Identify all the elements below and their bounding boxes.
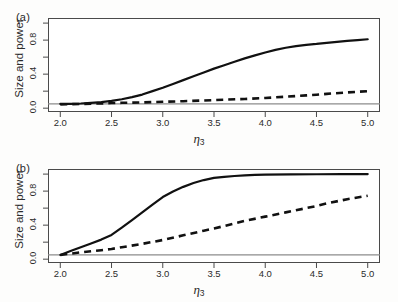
x-tick-label: 4.5 — [301, 268, 331, 279]
y-tick-label: 0.0 — [28, 96, 38, 118]
x-tick-label: 3.0 — [148, 117, 178, 128]
figure-container: (a) Size and power η3 0.00.40.82.02.53.0… — [0, 0, 398, 302]
x-tick-label: 3.5 — [199, 117, 229, 128]
x-tick-label: 2.0 — [45, 117, 75, 128]
x-tick-label: 3.0 — [148, 268, 178, 279]
chart-panel-a: (a) Size and power η3 0.00.40.82.02.53.0… — [0, 0, 398, 151]
series-line-dashed — [60, 196, 367, 255]
x-tick-label: 5.0 — [353, 268, 383, 279]
x-axis-title-b: η3 — [0, 282, 398, 298]
x-tick-label: 3.5 — [199, 268, 229, 279]
series-line-solid — [60, 39, 367, 104]
y-tick-label: 0.4 — [28, 62, 38, 84]
x-axis-title-a: η3 — [0, 131, 398, 147]
series-line-solid — [60, 174, 367, 255]
x-tick-label: 2.0 — [45, 268, 75, 279]
x-tick-label: 5.0 — [353, 117, 383, 128]
x-tick-label: 4.5 — [301, 117, 331, 128]
y-tick-label: 0.8 — [28, 179, 38, 201]
y-tick-label: 0.4 — [28, 213, 38, 235]
x-tick-label: 4.0 — [250, 117, 280, 128]
x-tick-label: 2.5 — [97, 117, 127, 128]
chart-panel-b: (b) Size and power η3 0.00.40.82.02.53.0… — [0, 151, 398, 302]
x-tick-label: 4.0 — [250, 268, 280, 279]
x-tick-label: 2.5 — [97, 268, 127, 279]
y-tick-label: 0.0 — [28, 247, 38, 269]
plot-svg-a — [0, 0, 398, 151]
y-tick-label: 0.8 — [28, 28, 38, 50]
plot-svg-b — [0, 151, 398, 302]
